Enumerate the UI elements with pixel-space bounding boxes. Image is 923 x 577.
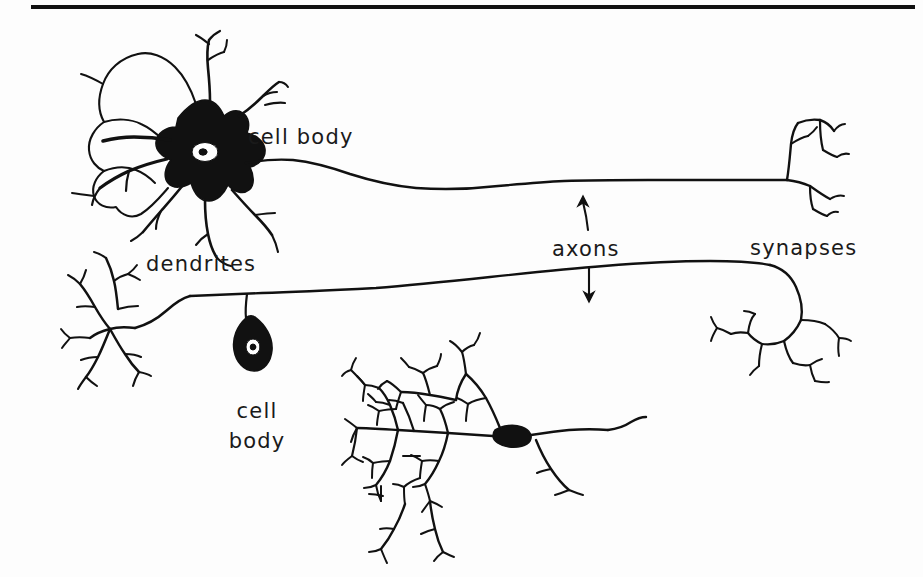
upper-neuron-axon	[246, 160, 787, 189]
horizontal-rule	[31, 5, 915, 9]
neuron-diagram-figure: cell body dendrites axons synapses cell …	[0, 0, 923, 577]
bottom-center-neuron-dendrites	[342, 333, 500, 563]
diagram-canvas	[0, 0, 923, 577]
lower-left-neuron-synapses	[711, 265, 851, 382]
upper-neuron-synapses	[787, 120, 849, 216]
upper-neuron-nucleolus	[199, 149, 207, 155]
bottom-center-neuron	[342, 333, 646, 563]
label-synapses: synapses	[750, 235, 857, 263]
label-cell-body-upper: cell body	[248, 124, 354, 152]
label-dendrites: dendrites	[146, 251, 256, 279]
arrow-up-to-upper-axon	[578, 196, 588, 230]
bottom-center-neuron-axon	[531, 417, 646, 495]
upper-neuron	[72, 31, 849, 266]
lower-left-neuron-nucleolus	[250, 344, 256, 350]
label-axons: axons	[552, 236, 620, 264]
lower-left-neuron-dendrites	[61, 252, 151, 389]
lower-left-neuron-axon	[190, 261, 770, 296]
label-cell-body-lower-line2: body	[222, 428, 292, 456]
label-cell-body-lower-line1: cell	[222, 398, 292, 426]
bottom-center-neuron-soma	[493, 425, 531, 447]
arrow-down-to-lower-axon	[584, 268, 594, 302]
lower-left-neuron-proximal	[135, 296, 190, 328]
lower-left-neuron-soma	[234, 294, 273, 371]
